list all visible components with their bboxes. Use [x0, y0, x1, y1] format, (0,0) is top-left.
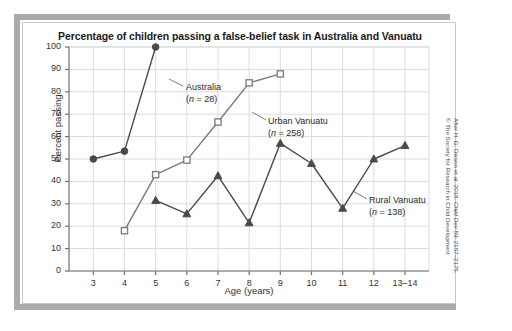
series-annotation-urban-name: Urban Vanuatu	[268, 116, 328, 126]
series-annotation-urban: Urban Vanuatu (n = 258)	[268, 116, 328, 139]
y-tick-label: 40	[31, 175, 61, 185]
figure-card: Percentage of children passing a false-b…	[22, 22, 456, 304]
source-attribution-line1: After H. G. Dixson et al. 2018. Child De…	[452, 118, 460, 308]
series-annotation-urban-n: (n = 258)	[268, 128, 328, 140]
y-tick-label: 100	[31, 41, 61, 51]
y-tick-label: 50	[31, 153, 61, 163]
y-tick-label: 0	[31, 265, 61, 275]
axis-ticks	[65, 47, 405, 275]
y-tick-label: 10	[31, 243, 61, 253]
source-attribution: After H. G. Dixson et al. 2018. Child De…	[445, 118, 460, 308]
series-annotation-rural-name: Rural Vanuatu	[369, 195, 426, 205]
series-annotation-australia: Australia (n = 28)	[186, 82, 221, 105]
source-attribution-line2: © The Society for Research in Child Deve…	[445, 118, 453, 308]
figure-shadow-top	[14, 14, 450, 20]
series-annotation-australia-name: Australia	[186, 82, 221, 92]
series-annotation-australia-n: (n = 28)	[186, 94, 221, 106]
y-tick-label: 30	[31, 198, 61, 208]
chart-plot	[23, 23, 457, 305]
y-tick-label: 90	[31, 63, 61, 73]
y-tick-label: 60	[31, 131, 61, 141]
y-tick-label: 70	[31, 108, 61, 118]
figure-shadow-left	[14, 14, 20, 310]
series-annotation-rural: Rural Vanuatu (n = 138)	[369, 195, 426, 218]
y-tick-label: 20	[31, 220, 61, 230]
series-annotation-rural-n: (n = 138)	[369, 207, 426, 219]
y-tick-label: 80	[31, 86, 61, 96]
x-tick-label: 13–14	[385, 278, 425, 288]
figure-page: Percentage of children passing a false-b…	[0, 0, 512, 331]
